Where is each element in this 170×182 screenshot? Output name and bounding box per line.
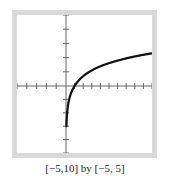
chart-svg [17,15,152,153]
function-curve [66,53,152,126]
plot-area [17,15,152,153]
window-range-caption: [−5,10] by [−5, 5] [0,161,170,175]
